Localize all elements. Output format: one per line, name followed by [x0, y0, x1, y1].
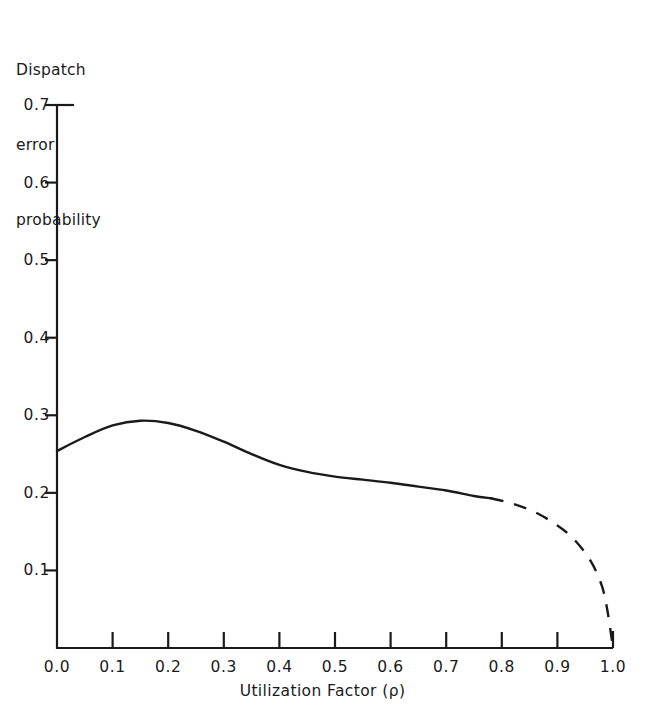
x-tick-label: 0.0 — [44, 658, 70, 676]
x-tick-label: 0.6 — [377, 658, 403, 676]
y-tick-label: 0.5 — [24, 251, 50, 269]
x-tick-label: 0.1 — [99, 658, 125, 676]
axis-frame-path — [57, 105, 613, 648]
x-tick-label: 0.9 — [544, 658, 570, 676]
y-tick-label: 0.4 — [24, 329, 50, 347]
curve-dashed — [491, 498, 613, 648]
chart-figure: Dispatch error probability 0.10.20.30.40… — [0, 0, 645, 719]
y-tick-label: 0.3 — [24, 406, 50, 424]
x-tick-label: 0.3 — [211, 658, 237, 676]
x-tick-marks — [113, 632, 558, 648]
y-tick-label: 0.1 — [24, 561, 50, 579]
plot-canvas — [0, 0, 645, 719]
x-tick-label: 0.2 — [155, 658, 181, 676]
axes-lines — [57, 105, 613, 648]
x-tick-label: 0.5 — [322, 658, 348, 676]
x-tick-label: 0.7 — [433, 658, 459, 676]
y-tick-label: 0.2 — [24, 484, 50, 502]
curve-solid — [57, 421, 491, 499]
x-axis-title: Utilization Factor (ρ) — [0, 682, 645, 700]
x-tick-label: 0.8 — [489, 658, 515, 676]
y-tick-label: 0.7 — [24, 96, 50, 114]
x-tick-label: 1.0 — [600, 658, 626, 676]
x-tick-label: 0.4 — [266, 658, 292, 676]
y-tick-label: 0.6 — [24, 174, 50, 192]
